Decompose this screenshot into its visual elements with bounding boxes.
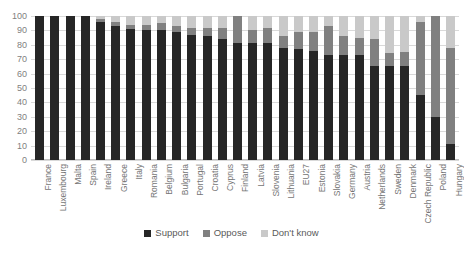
bar-stack (81, 16, 90, 160)
x-axis-label-text: Hungary (455, 164, 464, 196)
bar-segment-don-t-know (126, 16, 135, 25)
square-swatch-icon (203, 230, 210, 237)
bar-segment-oppose (279, 36, 288, 48)
x-axis-label: Portugal (196, 132, 205, 164)
chart-legend: SupportOpposeDon't know (0, 228, 463, 238)
x-axis-label-cell: Luxembourg (47, 162, 62, 224)
x-axis-label-cell: Estonia (306, 162, 321, 224)
x-axis-label-cell: Ireland (93, 162, 108, 224)
bar-segment-oppose (339, 36, 348, 55)
bar-segment-oppose (355, 38, 364, 55)
bar-segment-oppose (370, 39, 379, 66)
x-axis-label-cell: Latvia (245, 162, 260, 224)
bar-segment-don-t-know (263, 16, 272, 28)
x-axis-label: Cyprus (226, 137, 235, 164)
y-axis-tick-0: 0 (22, 156, 27, 165)
x-axis-label-cell: Finland (230, 162, 245, 224)
legend-item[interactable]: Don't know (261, 228, 319, 238)
x-axis-label: Ireland (104, 138, 113, 164)
bar-segment-oppose (385, 53, 394, 66)
bar-segment-don-t-know (248, 16, 257, 30)
bar-segment-don-t-know (279, 16, 288, 36)
bar-column[interactable] (78, 16, 93, 160)
bar-segment-oppose (203, 28, 212, 37)
x-axis-label: Germany (348, 129, 357, 164)
x-axis-label-cell: Hungary (443, 162, 458, 224)
x-axis-label: Czech Republic (424, 104, 433, 164)
bar-segment-don-t-know (203, 16, 212, 28)
bar-segment-oppose (294, 32, 303, 49)
x-axis-label: Slovenia (272, 131, 281, 164)
x-axis-label-cell: Portugal (184, 162, 199, 224)
legend-item[interactable]: Support (144, 228, 188, 238)
x-axis-label-cell: Italy (123, 162, 138, 224)
x-axis-label-cell: Austria (352, 162, 367, 224)
x-axis-label: Slovakia (333, 132, 342, 164)
bar-segment-oppose (309, 32, 318, 51)
legend-label: Oppose (214, 228, 247, 238)
y-axis: 0102030405060708090100 (0, 8, 30, 160)
legend-item[interactable]: Oppose (203, 228, 247, 238)
x-axis-label-cell: Greece (108, 162, 123, 224)
x-axis-label-cell: Czech Republic (412, 162, 427, 224)
square-swatch-icon (261, 230, 268, 237)
bar-segment-don-t-know (172, 16, 181, 26)
x-axis-label-cell: Sweden (382, 162, 397, 224)
y-axis-tick-20: 20 (17, 127, 27, 136)
bar-segment-don-t-know (294, 16, 303, 32)
legend-label: Support (155, 228, 188, 238)
x-axis-label-cell: Malta (62, 162, 77, 224)
x-axis-label: Croatia (211, 137, 220, 164)
x-axis-label: Netherlands (378, 118, 387, 164)
bar-segment-support (81, 16, 90, 160)
x-axis-label: Sweden (394, 133, 403, 164)
x-axis-label-cell: EU27 (291, 162, 306, 224)
bar-segment-oppose (157, 23, 166, 30)
x-axis-label-cell: Denmark (397, 162, 412, 224)
x-axis-label: Luxembourg (59, 117, 68, 164)
bar-segment-oppose (446, 48, 455, 144)
y-axis-tick-30: 30 (17, 112, 27, 121)
x-axis-label: Belgium (165, 133, 174, 164)
bar-segment-oppose (187, 28, 196, 35)
bar-segment-oppose (416, 22, 425, 95)
x-axis-label-cell: Germany (336, 162, 351, 224)
x-axis-label: Greece (120, 136, 129, 164)
bar-segment-oppose (248, 30, 257, 43)
bar-segment-don-t-know (370, 16, 379, 39)
y-axis-tick-90: 90 (17, 26, 27, 35)
x-axis-label: Lithuania (287, 129, 296, 164)
y-axis-tick-40: 40 (17, 98, 27, 107)
bar-segment-don-t-know (142, 16, 151, 25)
x-axis-label: Poland (439, 138, 448, 164)
x-axis-label-cell: Spain (78, 162, 93, 224)
x-axis-label-cell: Cyprus (215, 162, 230, 224)
x-axis-label: EU27 (302, 143, 311, 164)
x-axis-label: Latvia (257, 141, 266, 164)
bar-segment-don-t-know (157, 16, 166, 23)
x-axis-label-cell: Belgium (154, 162, 169, 224)
x-axis-labels: FranceLuxembourgMaltaSpainIrelandGreeceI… (31, 162, 459, 224)
bar-segment-don-t-know (385, 16, 394, 53)
x-axis-label: Malta (74, 143, 83, 164)
x-axis-label: France (44, 138, 53, 164)
y-axis-tick-10: 10 (17, 141, 27, 150)
bar-segment-don-t-know (309, 16, 318, 32)
bar-segment-don-t-know (218, 16, 227, 28)
x-axis-label: Finland (241, 136, 250, 164)
square-swatch-icon (144, 230, 151, 237)
bar-segment-don-t-know (446, 16, 455, 48)
y-axis-tick-50: 50 (17, 84, 27, 93)
x-axis-label: Hungary (455, 132, 464, 164)
x-axis-label-cell: France (32, 162, 47, 224)
x-axis-label-cell: Croatia (199, 162, 214, 224)
x-axis-label-cell: Bulgaria (169, 162, 184, 224)
bar-stack (309, 16, 318, 160)
x-axis-label: Spain (89, 142, 98, 164)
x-axis-label-cell: Slovakia (321, 162, 336, 224)
bar-segment-don-t-know (324, 16, 333, 26)
bar-segment-oppose (324, 26, 333, 55)
y-axis-tick-60: 60 (17, 69, 27, 78)
bar-segment-oppose (431, 16, 440, 117)
